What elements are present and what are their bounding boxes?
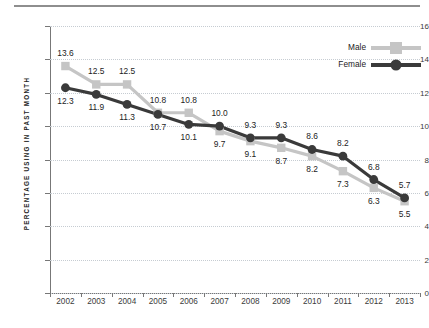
data-point-male bbox=[339, 167, 347, 175]
value-label-female: 10.7 bbox=[150, 122, 166, 132]
series-line-female bbox=[65, 88, 404, 198]
data-point-female bbox=[246, 133, 255, 142]
value-label-male: 9.1 bbox=[245, 149, 257, 159]
value-label-female: 8.2 bbox=[337, 138, 349, 148]
value-label-male: 13.6 bbox=[57, 48, 73, 58]
value-label-female: 11.3 bbox=[119, 112, 135, 122]
data-point-female bbox=[400, 193, 409, 202]
data-point-female bbox=[61, 83, 70, 92]
data-point-female bbox=[184, 120, 193, 129]
data-point-male bbox=[277, 144, 285, 152]
value-label-female: 10.1 bbox=[181, 132, 197, 142]
value-label-male: 10.8 bbox=[181, 95, 197, 105]
value-label-female: 12.3 bbox=[57, 96, 73, 106]
legend-label-male: Male bbox=[348, 42, 366, 52]
value-label-female: 8.6 bbox=[306, 131, 318, 141]
legend-item-male[interactable]: Male bbox=[322, 40, 422, 57]
legend-swatch-female-icon bbox=[370, 57, 422, 73]
data-point-male bbox=[92, 80, 100, 88]
data-point-female bbox=[92, 90, 101, 99]
data-point-male bbox=[370, 184, 378, 192]
value-label-male: 12.5 bbox=[88, 66, 104, 76]
value-label-female: 5.7 bbox=[399, 180, 411, 190]
data-point-male bbox=[185, 109, 193, 117]
value-label-male: 10.8 bbox=[150, 95, 166, 105]
value-label-female: 9.3 bbox=[275, 120, 287, 130]
value-label-male: 7.3 bbox=[337, 179, 349, 189]
value-label-male: 8.7 bbox=[275, 156, 287, 166]
value-label-male: 9.7 bbox=[214, 139, 226, 149]
data-point-male bbox=[61, 62, 69, 70]
chart-legend: Male Female bbox=[322, 40, 422, 74]
data-point-female bbox=[369, 175, 378, 184]
value-label-male: 8.2 bbox=[306, 164, 318, 174]
data-point-female bbox=[154, 110, 163, 119]
value-label-female: 6.8 bbox=[368, 162, 380, 172]
value-label-female: 9.3 bbox=[245, 120, 257, 130]
value-label-female: 11.9 bbox=[88, 102, 104, 112]
chart-container: PERCENTAGE USING IN PAST MONTH 024681012… bbox=[0, 0, 429, 328]
data-point-female bbox=[308, 145, 317, 154]
value-label-male: 5.5 bbox=[399, 209, 411, 219]
data-point-female bbox=[277, 133, 286, 142]
legend-swatch-male-icon bbox=[370, 40, 422, 56]
value-label-male: 12.5 bbox=[119, 66, 135, 76]
data-point-female bbox=[215, 122, 224, 131]
value-label-female: 10.0 bbox=[211, 108, 227, 118]
value-label-male: 6.3 bbox=[368, 196, 380, 206]
data-point-female bbox=[123, 100, 132, 109]
legend-item-female[interactable]: Female bbox=[322, 57, 422, 74]
data-point-female bbox=[339, 152, 348, 161]
legend-label-female: Female bbox=[338, 59, 366, 69]
data-point-male bbox=[123, 80, 131, 88]
